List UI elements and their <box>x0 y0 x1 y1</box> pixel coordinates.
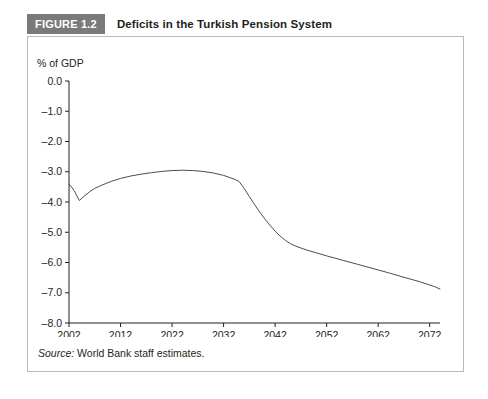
svg-text:–6.0: –6.0 <box>42 256 63 268</box>
chart-area: % of GDP 0.0–1.0–2.0–3.0–4.0–5.0–6.0–7.0… <box>28 37 465 373</box>
svg-text:2072: 2072 <box>418 329 442 337</box>
svg-text:–7.0: –7.0 <box>42 286 63 298</box>
svg-text:2052: 2052 <box>315 329 339 337</box>
svg-text:0.0: 0.0 <box>47 75 62 87</box>
svg-text:–8.0: –8.0 <box>42 317 63 329</box>
svg-text:2022: 2022 <box>160 329 184 337</box>
line-chart-plot: 0.0–1.0–2.0–3.0–4.0–5.0–6.0–7.0–8.020022… <box>28 37 465 337</box>
svg-text:–4.0: –4.0 <box>42 196 63 208</box>
figure-header: FIGURE 1.2 Deficits in the Turkish Pensi… <box>27 14 465 34</box>
figure-panel: % of GDP 0.0–1.0–2.0–3.0–4.0–5.0–6.0–7.0… <box>27 36 464 372</box>
source-label: Source: <box>38 347 74 359</box>
svg-text:–2.0: –2.0 <box>42 135 63 147</box>
svg-text:2042: 2042 <box>263 329 287 337</box>
svg-text:2012: 2012 <box>109 329 133 337</box>
svg-text:–3.0: –3.0 <box>42 165 63 177</box>
svg-text:2032: 2032 <box>212 329 236 337</box>
svg-text:–5.0: –5.0 <box>42 226 63 238</box>
svg-text:–1.0: –1.0 <box>42 105 63 117</box>
source-text: World Bank staff estimates. <box>74 347 204 359</box>
figure-title: Deficits in the Turkish Pension System <box>105 14 332 34</box>
source-note: Source: World Bank staff estimates. <box>38 347 205 359</box>
figure-number-badge: FIGURE 1.2 <box>27 14 105 34</box>
svg-text:2062: 2062 <box>366 329 390 337</box>
svg-text:2002: 2002 <box>57 329 81 337</box>
